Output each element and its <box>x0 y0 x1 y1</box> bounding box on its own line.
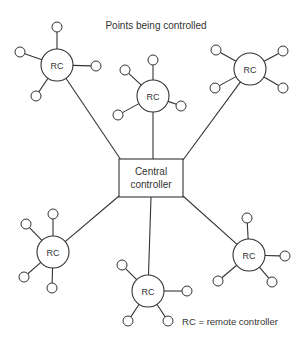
central-controller-box <box>119 159 183 197</box>
point-link <box>220 52 236 61</box>
link-rc-bottom-center <box>149 197 151 275</box>
controlled-point <box>47 283 57 293</box>
controlled-point <box>278 83 288 93</box>
point-link <box>25 54 42 60</box>
controlled-point <box>15 47 25 57</box>
network-diagram: RCRCRCRCRCRC Central controller Points b… <box>0 0 305 340</box>
central-controller: Central controller <box>119 159 183 197</box>
central-controller-label-line1: Central <box>135 166 167 177</box>
point-link <box>39 78 48 92</box>
point-link <box>157 304 165 317</box>
point-link <box>168 101 176 104</box>
controlled-point <box>91 61 101 71</box>
link-rc-bottom-left <box>65 196 119 242</box>
controlled-point <box>123 316 133 326</box>
controlled-point <box>52 22 62 32</box>
rc-top-left: RC <box>15 22 101 101</box>
controlled-point <box>210 83 220 93</box>
diagram-title: Points being controlled <box>105 20 206 31</box>
point-link <box>29 228 41 241</box>
remote-controller-label: RC <box>51 61 64 71</box>
controlled-point <box>31 91 41 101</box>
point-link <box>131 304 139 317</box>
rc-top-right: RC <box>210 45 288 93</box>
point-link <box>126 269 137 280</box>
controlled-point <box>163 316 173 326</box>
controlled-point <box>48 209 58 219</box>
point-link <box>259 267 268 278</box>
controlled-point <box>182 286 192 296</box>
point-link <box>122 104 139 113</box>
link-rc-top-right <box>183 82 241 160</box>
remote-controller-label: RC <box>142 287 155 297</box>
controlled-point <box>148 55 158 65</box>
remote-controller-label: RC <box>47 248 60 258</box>
rc-bottom-center: RC <box>117 260 192 326</box>
remote-controller-label: RC <box>243 251 256 261</box>
remote-controller-label: RC <box>147 92 160 102</box>
controlled-point <box>19 272 29 282</box>
legend-text: RC = remote controller <box>182 316 278 327</box>
rc-bottom-right: RC <box>213 213 290 287</box>
controlled-point <box>280 251 290 261</box>
controlled-point <box>113 110 123 120</box>
rc-top-center: RC <box>113 55 186 120</box>
controlled-point <box>267 277 277 287</box>
controlled-point <box>176 101 186 111</box>
controlled-point <box>211 45 221 55</box>
remote-controller-label: RC <box>244 65 257 75</box>
point-link <box>222 265 237 278</box>
controlled-point <box>117 260 127 270</box>
point-link <box>264 77 279 86</box>
rc-bottom-left: RC <box>19 209 69 293</box>
controlled-point <box>120 65 130 75</box>
point-link <box>247 223 248 239</box>
link-rc-bottom-right <box>183 196 237 244</box>
link-rc-top-left <box>66 78 121 160</box>
point-link <box>264 53 279 61</box>
controlled-point <box>213 276 223 286</box>
point-link <box>219 77 236 86</box>
controlled-point <box>21 219 31 229</box>
point-link <box>28 262 41 273</box>
controlled-point <box>242 213 252 223</box>
central-controller-label-line2: controller <box>130 179 172 190</box>
point-link <box>129 73 142 85</box>
controlled-point <box>278 46 288 56</box>
